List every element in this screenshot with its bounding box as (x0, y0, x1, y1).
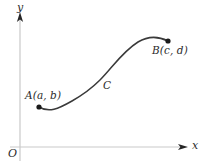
origin-label: O (8, 148, 17, 159)
diagram-canvas (0, 0, 204, 165)
curve-diagram-figure: y x O A(a, b) B(c, d) C (0, 0, 204, 165)
point-a-label: A(a, b) (25, 90, 61, 101)
x-axis-label: x (192, 140, 198, 151)
point-b-marker (165, 38, 170, 43)
point-a-marker (36, 104, 41, 109)
point-b-label: B(c, d) (152, 45, 188, 56)
y-axis-label: y (17, 2, 23, 13)
curve-label: C (103, 80, 111, 91)
